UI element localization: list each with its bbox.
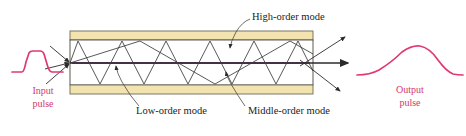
figure-canvas [0, 0, 466, 136]
label-high-order-mode: High-order mode [252, 11, 325, 22]
label-input-pulse-line2: pulse [20, 99, 66, 110]
label-low-order-mode: Low-order mode [136, 105, 207, 116]
cladding-bottom [70, 85, 313, 94]
cladding-top [70, 31, 313, 40]
label-output-pulse-line2: pulse [382, 98, 438, 109]
entry-arrow-upper [46, 64, 69, 84]
entry-arrows [45, 46, 69, 84]
modal-dispersion-figure: High-order mode Low-order mode Middle-or… [0, 0, 466, 136]
input-pulse-curve [12, 51, 63, 72]
output-pulse-curve [357, 46, 463, 75]
label-input-pulse-line1: Input [20, 86, 66, 97]
label-middle-order-mode: Middle-order mode [248, 105, 330, 116]
entry-arrow-lower [50, 46, 69, 62]
label-output-pulse-line1: Output [382, 85, 438, 96]
